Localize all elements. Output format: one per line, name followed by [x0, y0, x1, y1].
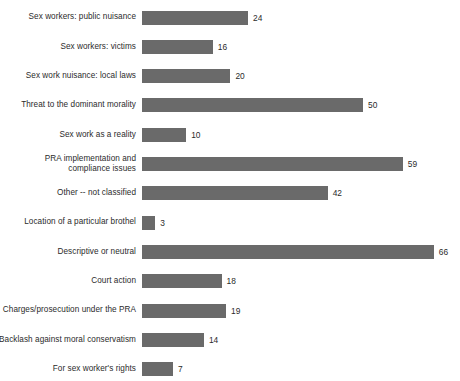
category-label: Sex workers: victims: [0, 42, 136, 53]
bar-row: Charges/prosecution under the PRA19: [0, 299, 460, 323]
bar-value-label: 42: [333, 186, 342, 200]
bar-value-label: 50: [368, 98, 377, 112]
bar: [142, 157, 403, 171]
bar-value-label: 66: [439, 245, 448, 259]
bar-row: Location of a particular brothel3: [0, 211, 460, 235]
bar-and-value: 3: [142, 211, 165, 235]
bar: [142, 333, 204, 347]
bar-value-label: 7: [178, 362, 183, 376]
category-label: For sex worker's rights: [0, 364, 136, 375]
bar: [142, 274, 222, 288]
bar-row: Descriptive or neutral66: [0, 240, 460, 264]
bar-value-label: 20: [235, 69, 244, 83]
bar: [142, 216, 155, 230]
category-label: PRA implementation and compliance issues: [0, 154, 136, 175]
category-label: Court action: [0, 276, 136, 287]
category-label: Sex work nuisance: local laws: [0, 71, 136, 82]
category-label: Location of a particular brothel: [0, 217, 136, 228]
bar: [142, 245, 434, 259]
bar-value-label: 14: [209, 333, 218, 347]
bar-row: PRA implementation and compliance issues…: [0, 152, 460, 176]
bar-and-value: 7: [142, 357, 183, 381]
bar-row: Court action18: [0, 269, 460, 293]
bar-row: Sex workers: victims16: [0, 35, 460, 59]
bar-value-label: 19: [231, 304, 240, 318]
bar-value-label: 16: [218, 40, 227, 54]
bar-and-value: 66: [142, 240, 448, 264]
bar-and-value: 24: [142, 6, 262, 30]
bar: [142, 128, 186, 142]
bar-and-value: 50: [142, 93, 377, 117]
bar-and-value: 14: [142, 328, 218, 352]
bar-row: Sex work as a reality10: [0, 123, 460, 147]
bar-row: Other -- not classified42: [0, 181, 460, 205]
plot-area: Sex workers: public nuisance24Sex worker…: [0, 0, 460, 381]
category-label: Threat to the dominant morality: [0, 100, 136, 111]
category-label: Other -- not classified: [0, 188, 136, 199]
bar: [142, 186, 328, 200]
bar-value-label: 24: [253, 11, 262, 25]
bar-and-value: 19: [142, 299, 240, 323]
bar-value-label: 10: [191, 128, 200, 142]
bar: [142, 11, 248, 25]
bar-row: Threat to the dominant morality50: [0, 93, 460, 117]
bar-value-label: 3: [160, 216, 165, 230]
bar-and-value: 10: [142, 123, 201, 147]
bar: [142, 40, 213, 54]
bar-and-value: 18: [142, 269, 236, 293]
bar-and-value: 42: [142, 181, 342, 205]
category-label: Sex work as a reality: [0, 130, 136, 141]
bar-value-label: 18: [227, 274, 236, 288]
bar-row: Backlash against moral conservatism14: [0, 328, 460, 352]
bar-row: Sex workers: public nuisance24: [0, 6, 460, 30]
category-label: Descriptive or neutral: [0, 247, 136, 258]
bar: [142, 304, 226, 318]
bar-chart: Sex workers: public nuisance24Sex worker…: [0, 0, 460, 381]
bar-value-label: 59: [408, 157, 417, 171]
bar: [142, 98, 363, 112]
bar-and-value: 20: [142, 64, 245, 88]
bar-row: For sex worker's rights7: [0, 357, 460, 381]
bar-and-value: 59: [142, 152, 417, 176]
category-label: Backlash against moral conservatism: [0, 335, 136, 346]
bar-and-value: 16: [142, 35, 227, 59]
bar: [142, 362, 173, 376]
category-label: Sex workers: public nuisance: [0, 12, 136, 23]
category-label: Charges/prosecution under the PRA: [0, 305, 136, 316]
bar-row: Sex work nuisance: local laws20: [0, 64, 460, 88]
bar: [142, 69, 230, 83]
